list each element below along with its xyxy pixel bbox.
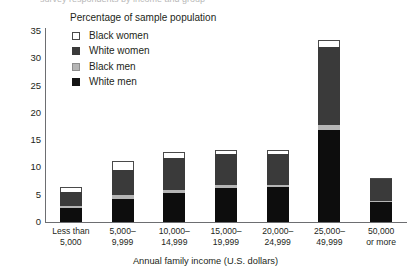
bar-6[interactable] — [370, 178, 392, 222]
x-axis-label-1: 5,000–9,999 — [94, 226, 152, 247]
x-axis-title: Annual family income (U.S. dollars) — [0, 256, 411, 266]
x-axis-label-line2: 24,999 — [249, 237, 307, 248]
x-axis-label-line2: 5,000 — [42, 237, 100, 248]
chart-title: Percentage of sample population — [70, 12, 216, 23]
bar-4[interactable] — [267, 150, 289, 222]
x-axis-label-0: Less than5,000 — [42, 226, 100, 247]
bar-segment-white-men — [215, 188, 237, 222]
bar-segment-white-women — [60, 192, 82, 206]
bar-segment-white-women — [112, 170, 134, 195]
bar-segment-white-women — [318, 47, 340, 124]
bar-segment-white-women — [267, 154, 289, 185]
y-axis-tick-label: 25 — [17, 81, 41, 91]
y-axis-tick-label: 20 — [17, 108, 41, 118]
bars-layer — [45, 31, 407, 222]
bar-0[interactable] — [60, 187, 82, 222]
bar-3[interactable] — [215, 150, 237, 222]
bar-segment-white-men — [163, 193, 185, 222]
x-axis-line — [45, 222, 407, 223]
bar-1[interactable] — [112, 161, 134, 222]
bar-segment-white-men — [60, 208, 82, 222]
x-axis-label-3: 15,000–19,999 — [197, 226, 255, 247]
bar-chart: survey respondents by income and group 0… — [0, 0, 411, 274]
y-axis-tick-label: 10 — [17, 162, 41, 172]
x-axis-label-line1: 25,000– — [314, 226, 345, 236]
x-axis-label-line2: or more — [352, 237, 410, 248]
bar-segment-white-men — [267, 187, 289, 222]
x-axis-label-line2: 49,999 — [300, 237, 358, 248]
x-axis-label-line1: 50,000 — [368, 226, 394, 236]
y-axis-tick-label: 30 — [17, 53, 41, 63]
x-axis-label-6: 50,000or more — [352, 226, 410, 247]
x-axis-label-line2: 14,999 — [145, 237, 203, 248]
x-axis-label-line1: 20,000– — [262, 226, 293, 236]
x-axis-label-line1: 10,000– — [159, 226, 190, 236]
cut-off-caption: survey respondents by income and group — [40, 0, 370, 5]
bar-2[interactable] — [163, 152, 185, 222]
bar-segment-white-women — [163, 158, 185, 190]
x-axis-labels: Less than5,0005,000–9,99910,000–14,99915… — [45, 226, 407, 252]
y-axis-tick-label: 15 — [17, 135, 41, 145]
bar-segment-black-women — [112, 161, 134, 170]
x-axis-label-line1: 15,000– — [210, 226, 241, 236]
y-axis-tick-label: 0 — [17, 217, 41, 227]
bar-segment-white-women — [370, 179, 392, 200]
x-axis-label-5: 25,000–49,999 — [300, 226, 358, 247]
y-axis-tick-label: 35 — [17, 26, 41, 36]
bar-segment-white-women — [215, 154, 237, 185]
x-axis-label-line2: 9,999 — [94, 237, 152, 248]
x-axis-label-4: 20,000–24,999 — [249, 226, 307, 247]
x-axis-label-line2: 19,999 — [197, 237, 255, 248]
x-axis-label-line1: Less than — [52, 226, 89, 236]
bar-segment-black-women — [318, 40, 340, 47]
x-axis-label-line1: 5,000– — [109, 226, 135, 236]
bar-segment-white-men — [112, 199, 134, 222]
x-axis-label-2: 10,000–14,999 — [145, 226, 203, 247]
y-axis-tick-label: 5 — [17, 190, 41, 200]
bar-5[interactable] — [318, 40, 340, 222]
bar-segment-white-men — [318, 130, 340, 222]
bar-segment-white-men — [370, 202, 392, 222]
